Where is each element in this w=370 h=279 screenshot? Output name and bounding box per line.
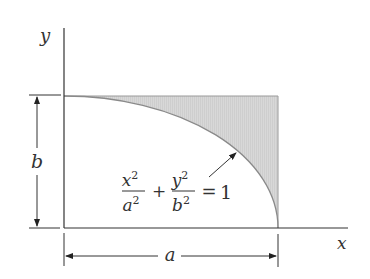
eq-term2-denominator: b2 xyxy=(172,194,190,215)
x-axis-label: x xyxy=(337,233,347,253)
diagram-canvas: y x b a x2 a2 + y2 b2 = 1 xyxy=(0,0,370,279)
shaded-region xyxy=(64,96,278,228)
eq-term2-numerator: y2 xyxy=(171,169,189,190)
y-axis-label: y xyxy=(39,25,51,46)
eq-plus-sign: + xyxy=(152,181,166,201)
equation-leader-arrow xyxy=(209,153,236,177)
ellipse-equation: x2 a2 + y2 b2 = 1 xyxy=(122,169,232,215)
eq-rhs: 1 xyxy=(220,181,232,203)
b-dimension-label: b xyxy=(31,150,43,172)
eq-term1-numerator: x2 xyxy=(122,169,139,190)
eq-term1-denominator: a2 xyxy=(122,194,139,215)
a-dimension-label: a xyxy=(165,244,176,265)
eq-equals-sign: = xyxy=(201,181,216,202)
